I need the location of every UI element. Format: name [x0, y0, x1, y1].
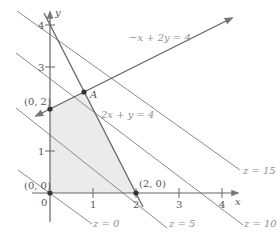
iso-label-z5: z = 5	[168, 218, 195, 229]
constraint-label-2: 2x + y = 4	[100, 109, 155, 120]
x-tick-label-3: 3	[176, 199, 182, 210]
y-tick-label-1: 1	[38, 146, 44, 157]
x-axis-label: x	[235, 196, 241, 207]
vertex-label-a: A	[89, 89, 97, 100]
iso-label-z15: z = 15	[242, 165, 276, 176]
vertex-2-0	[133, 190, 138, 195]
y-tick-label-3: 3	[38, 62, 44, 73]
x-tick-label-0: 0	[41, 197, 47, 208]
vertex-label-2-0: (2, 0)	[139, 178, 166, 189]
iso-label-z10: z = 10	[243, 218, 277, 229]
vertex-a	[81, 89, 86, 94]
iso-label-z0: z = 0	[92, 218, 120, 229]
vertex-0-2	[47, 106, 52, 111]
linear-programming-diagram: 0 1 2 3 4 1 3 4 x y (0, 0) (0, 2) A (2, …	[0, 0, 280, 244]
x-tick-label-2: 2	[133, 199, 139, 210]
vertex-origin	[47, 190, 52, 195]
x-tick-label-1: 1	[90, 199, 96, 210]
vertex-label-0-2: (0, 2)	[24, 96, 51, 107]
feasible-region	[50, 92, 136, 193]
x-tick-label-4: 4	[219, 199, 225, 210]
vertex-label-origin: (0, 0)	[24, 180, 51, 191]
constraint-label-1: −x + 2y = 4	[129, 32, 191, 43]
y-axis-label: y	[54, 7, 61, 18]
y-tick-label-4: 4	[38, 20, 44, 31]
